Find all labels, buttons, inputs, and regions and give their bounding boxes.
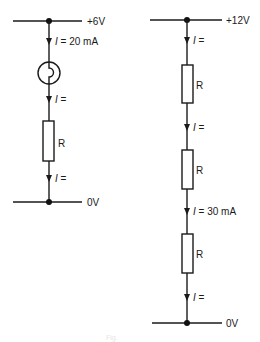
current-arrow-icon bbox=[184, 124, 190, 131]
current-arrow-icon bbox=[184, 37, 190, 44]
left-current-2: I = bbox=[55, 94, 67, 105]
right-circuit: +12V I = R I = R I = 30 mA R I = 0V bbox=[150, 15, 250, 329]
figure-caption: Fig. bbox=[106, 334, 118, 342]
left-circuit: +6V I = 20 mA I = R I = 0V bbox=[13, 16, 105, 208]
left-current-3: I = bbox=[55, 173, 67, 184]
left-supply-label: +6V bbox=[87, 16, 105, 27]
left-ground-label: 0V bbox=[87, 197, 100, 208]
current-arrow-icon bbox=[184, 208, 190, 215]
right-current-1: I = bbox=[193, 35, 205, 46]
right-resistor-3-label: R bbox=[196, 249, 203, 260]
right-supply-label: +12V bbox=[226, 15, 250, 26]
current-arrow-icon bbox=[46, 175, 52, 182]
circuit-diagram: +6V I = 20 mA I = R I = 0V +12V I = bbox=[0, 0, 260, 342]
resistor-icon bbox=[43, 121, 54, 161]
right-current-2: I = bbox=[193, 122, 205, 133]
current-arrow-icon bbox=[46, 96, 52, 103]
left-ground-junction bbox=[46, 199, 52, 205]
right-ground-junction bbox=[184, 320, 190, 326]
left-current-1: I = 20 mA bbox=[55, 36, 98, 47]
resistor-icon bbox=[182, 234, 193, 273]
resistor-icon bbox=[182, 150, 193, 189]
lamp-icon bbox=[38, 62, 60, 84]
current-arrow-icon bbox=[184, 294, 190, 301]
resistor-icon bbox=[182, 65, 193, 103]
right-current-3: I = 30 mA bbox=[193, 206, 236, 217]
right-ground-label: 0V bbox=[226, 318, 239, 329]
left-resistor-label: R bbox=[58, 138, 65, 149]
right-current-4: I = bbox=[193, 292, 205, 303]
right-resistor-1-label: R bbox=[196, 80, 203, 91]
right-resistor-2-label: R bbox=[196, 165, 203, 176]
current-arrow-icon bbox=[46, 38, 52, 45]
